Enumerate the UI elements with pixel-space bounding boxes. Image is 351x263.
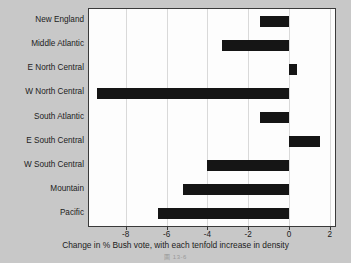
plot-area	[88, 8, 336, 227]
bar	[289, 136, 320, 147]
y-axis-label: New England	[0, 15, 84, 24]
y-axis-category-labels: New EnglandMiddle AtlanticE North Centra…	[0, 8, 84, 227]
bar	[158, 208, 289, 219]
figure-container: New EnglandMiddle AtlanticE North Centra…	[0, 0, 351, 263]
bar	[97, 88, 289, 99]
x-tick-label: 2	[318, 230, 342, 240]
y-axis-label: Pacific	[0, 208, 84, 217]
x-tick-label: 0	[277, 230, 301, 240]
figure-caption: 圖 13-6	[0, 252, 351, 261]
x-tick-label: -2	[236, 230, 260, 240]
bar	[222, 40, 289, 51]
bars-layer	[89, 9, 335, 226]
y-axis-label: W South Central	[0, 160, 84, 169]
y-axis-label: E South Central	[0, 136, 84, 145]
bar	[289, 64, 297, 75]
y-axis-label: E North Central	[0, 63, 84, 72]
bar	[260, 112, 289, 123]
x-tick-label: -6	[155, 230, 179, 240]
y-axis-label: Mountain	[0, 184, 84, 193]
x-tick-label: -8	[114, 230, 138, 240]
x-axis: -8-6-4-202	[88, 227, 336, 241]
bar	[183, 184, 289, 195]
bar	[207, 160, 289, 171]
bar	[260, 16, 289, 27]
y-axis-label: W North Central	[0, 87, 84, 96]
x-axis-title: Change in % Bush vote, with each tenfold…	[0, 240, 351, 250]
y-axis-label: South Atlantic	[0, 112, 84, 121]
x-tick-label: -4	[195, 230, 219, 240]
y-axis-label: Middle Atlantic	[0, 39, 84, 48]
